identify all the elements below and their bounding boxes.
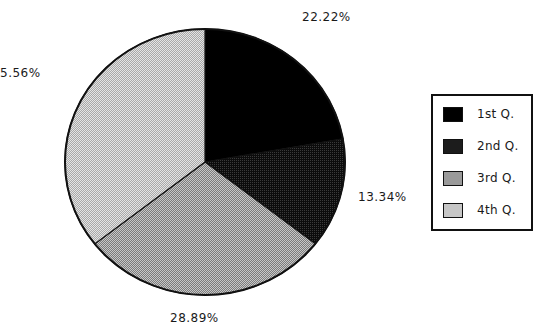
legend-label-q1: 1st Q.	[477, 107, 514, 121]
legend-swatch-q3	[443, 171, 463, 186]
slice-label-q1: 22.22%	[302, 10, 351, 24]
legend-label-q2: 2nd Q.	[477, 139, 519, 153]
legend-label-q4: 4th Q.	[477, 203, 516, 217]
chart-legend: 1st Q. 2nd Q. 3rd Q. 4th Q.	[431, 94, 533, 231]
legend-item-q3: 3rd Q.	[443, 170, 516, 186]
legend-item-q1: 1st Q.	[443, 106, 514, 122]
legend-swatch-q1	[443, 107, 463, 122]
legend-label-q3: 3rd Q.	[477, 171, 516, 185]
legend-item-q4: 4th Q.	[443, 202, 516, 218]
slice-label-q3: 28.89%	[170, 311, 219, 325]
slice-label-q4: 5.56%	[0, 66, 41, 80]
legend-swatch-q2	[443, 139, 463, 154]
legend-item-q2: 2nd Q.	[443, 138, 519, 154]
legend-swatch-q4	[443, 203, 463, 218]
slice-label-q2: 13.34%	[358, 190, 407, 204]
